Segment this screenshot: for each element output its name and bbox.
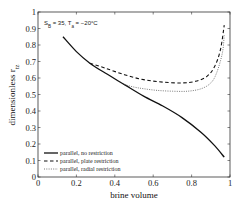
y-tick-label: 0.2	[25, 139, 36, 149]
y-tick-label: 0.9	[25, 24, 36, 34]
x-tick-label: 0.4	[109, 178, 120, 188]
y-tick-label: 0.7	[25, 57, 36, 67]
x-tick-label: 0.2	[71, 178, 82, 188]
annotation: SB = 35, Ta = −20°C	[44, 20, 98, 29]
legend: parallel, no restrictionparallel, plate …	[44, 150, 120, 172]
x-tick-label: 0.8	[186, 178, 197, 188]
x-axis-label: brine volume	[110, 190, 158, 200]
y-tick-label: 1	[32, 7, 36, 17]
y-tick-label: 0.8	[25, 40, 36, 50]
y-tick-label: 0.3	[25, 123, 36, 133]
y-tick-label: 0	[32, 172, 36, 182]
y-tick-label: 0.1	[25, 156, 36, 166]
x-tick-label: 1	[228, 178, 232, 188]
legend-label: parallel, radial restriction	[60, 166, 120, 172]
legend-label: parallel, plate restriction	[60, 158, 118, 164]
y-tick-label: 0.4	[25, 106, 36, 116]
chart: 00.20.40.60.8100.10.20.30.40.50.60.70.80…	[0, 0, 240, 203]
y-tick-label: 0.5	[25, 90, 36, 100]
y-axis-label: dimensionless rtz	[7, 64, 20, 125]
legend-label: parallel, no restriction	[60, 150, 113, 156]
x-tick-label: 0.6	[148, 178, 159, 188]
data-series	[63, 25, 224, 157]
series-line-dashed	[90, 25, 224, 83]
y-tick-label: 0.6	[25, 73, 36, 83]
series-line-solid	[63, 37, 224, 157]
x-tick-label: 0	[36, 178, 40, 188]
